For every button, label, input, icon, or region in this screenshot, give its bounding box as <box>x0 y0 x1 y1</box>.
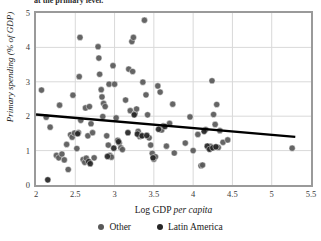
y-axis-label: Primary spending (% of GDP) <box>5 0 15 147</box>
scatter-chart: at the primary level. Primary spending (… <box>0 0 321 241</box>
data-point <box>148 142 154 148</box>
data-point <box>105 142 111 148</box>
x-tick-label: 5.5 <box>296 190 321 198</box>
data-point <box>88 121 94 127</box>
data-point <box>104 133 110 139</box>
data-point <box>38 87 44 93</box>
data-point <box>155 126 161 132</box>
series-other <box>38 17 295 172</box>
x-axis-label: Log GDP per capita <box>34 205 313 215</box>
data-point <box>61 157 67 163</box>
data-point <box>214 101 220 107</box>
legend-label: Other <box>109 222 131 232</box>
y-tick-label: 3 <box>8 78 30 86</box>
y-tick-label: 4 <box>8 43 30 51</box>
y-tick-label: 1 <box>8 147 30 155</box>
data-point <box>209 78 215 84</box>
y-tick-label: 5 <box>8 9 30 17</box>
x-axis-label-italic: per capita <box>173 205 212 215</box>
data-point <box>45 177 51 183</box>
data-point <box>91 155 97 161</box>
x-tick-label: 3.5 <box>139 190 169 198</box>
data-point <box>98 87 104 93</box>
data-point <box>199 162 205 168</box>
data-point <box>170 101 176 107</box>
data-point <box>56 102 62 108</box>
data-point <box>119 146 125 152</box>
legend-marker-icon <box>98 224 104 230</box>
data-point <box>130 68 136 74</box>
legend-item-other[interactable]: Other <box>98 222 131 232</box>
data-point <box>157 89 163 95</box>
data-point <box>210 111 216 117</box>
data-point <box>143 92 149 98</box>
data-point <box>76 74 82 80</box>
data-point <box>195 131 201 137</box>
x-tick-label: 2 <box>21 190 51 198</box>
data-point <box>89 130 95 136</box>
legend-item-latin-america[interactable]: Latin America <box>157 222 223 232</box>
data-point <box>110 63 116 69</box>
data-point <box>130 34 136 40</box>
data-point <box>47 124 53 130</box>
data-point <box>104 153 110 159</box>
data-point <box>190 148 196 154</box>
data-point <box>111 145 117 151</box>
data-point <box>100 113 106 119</box>
y-tick-label: 0 <box>8 181 30 189</box>
x-tick-label: 2.5 <box>60 190 90 198</box>
legend-label: Latin America <box>168 222 223 232</box>
y-tick-label: 2 <box>8 112 30 120</box>
data-point <box>74 145 80 151</box>
chart-title: at the primary level. <box>34 0 274 5</box>
x-tick-label: 4.5 <box>217 190 247 198</box>
data-point <box>125 130 131 136</box>
data-point <box>133 106 139 112</box>
data-point <box>163 143 169 149</box>
data-point <box>150 155 156 161</box>
data-point <box>171 150 177 156</box>
chart-legend: Other Latin America <box>0 222 321 232</box>
data-point <box>70 92 76 98</box>
data-point <box>95 44 101 50</box>
x-tick-label: 4 <box>178 190 208 198</box>
data-point <box>75 131 81 137</box>
data-point <box>65 166 71 172</box>
data-point <box>97 71 103 77</box>
data-point <box>131 112 137 118</box>
data-point <box>122 97 128 103</box>
data-point <box>111 81 117 87</box>
data-point <box>213 144 219 150</box>
data-point <box>59 151 65 157</box>
data-point <box>289 145 295 151</box>
data-point <box>77 34 83 40</box>
x-tick-label: 3 <box>100 190 130 198</box>
data-point <box>144 132 150 138</box>
data-point <box>99 94 105 100</box>
data-point <box>102 103 108 109</box>
plot-canvas <box>36 13 311 185</box>
data-point <box>96 55 102 61</box>
data-point <box>64 141 70 147</box>
x-tick-label: 5 <box>257 190 287 198</box>
data-point <box>212 121 218 127</box>
data-point <box>182 140 188 146</box>
data-point <box>187 114 193 120</box>
plot-area <box>34 11 313 187</box>
x-axis-label-plain: Log GDP <box>135 205 174 215</box>
data-point <box>140 79 146 85</box>
data-point <box>115 139 121 145</box>
data-point <box>141 17 147 23</box>
data-point <box>86 103 92 109</box>
data-point <box>155 83 161 89</box>
data-point <box>87 161 93 167</box>
legend-marker-icon <box>157 224 163 230</box>
data-point <box>144 112 150 118</box>
data-point <box>225 137 231 143</box>
data-point <box>106 81 112 87</box>
